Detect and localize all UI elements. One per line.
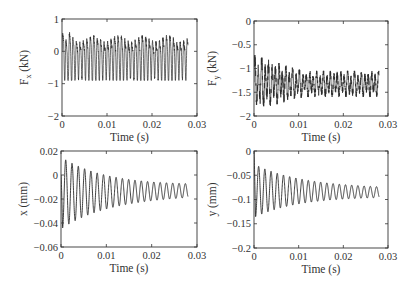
y-displacement-plot: 00.010.020.030−0.05−0.1−0.15−0.2Time (s)… [206, 146, 397, 277]
y-tick-label: −2 [48, 111, 59, 122]
y-tick-label: 0 [246, 146, 251, 157]
axes-frame [61, 151, 197, 247]
x-tick-label: 0.02 [334, 119, 352, 130]
y-tick-label: −0.2 [232, 243, 251, 254]
x-axis-label: Time (s) [110, 131, 149, 144]
x-tick-label: 0 [251, 119, 256, 130]
y-tick-label: 0 [246, 16, 251, 27]
y-tick-label: −1 [48, 78, 59, 89]
data-line [62, 32, 188, 80]
x-tick-label: 0.01 [289, 119, 307, 130]
x-tick-label: 0.01 [97, 250, 115, 261]
x-tick-label: 0 [58, 250, 63, 261]
x-tick-label: 0.01 [289, 251, 307, 262]
y-tick-label: −0.02 [34, 194, 58, 205]
x-axis-label: Time (s) [110, 262, 149, 275]
axes-frame [254, 21, 388, 116]
y-tick-label: 0.02 [40, 146, 58, 157]
y-tick-label: −0.15 [227, 218, 251, 229]
x-axis-label: Time (s) [302, 131, 341, 144]
y-tick-label: 1 [54, 14, 59, 25]
x-axis-label: Time (s) [302, 263, 341, 276]
y-tick-label: −0.06 [34, 242, 58, 253]
x-tick-label: 0 [59, 119, 64, 130]
y-tick-label: −1.5 [232, 87, 251, 98]
data-line [254, 151, 379, 217]
y-tick-label: 0 [53, 170, 58, 181]
y-tick-label: −0.04 [34, 218, 59, 229]
y-tick-label: −0.1 [232, 194, 251, 205]
x-displacement-plot: 00.010.020.030.020−0.02−0.04−0.06Time (s… [17, 146, 206, 276]
y-axis-label: Fx (kN) [18, 50, 33, 85]
y-axis-label: y (mm) [206, 182, 219, 216]
x-tick-label: 0.03 [379, 119, 397, 130]
data-line [254, 55, 379, 106]
x-tick-label: 0.02 [143, 119, 161, 130]
x-tick-label: 0.01 [98, 119, 116, 130]
y-axis-label: Fy (kN) [206, 51, 221, 86]
x-tick-label: 0.02 [142, 250, 160, 261]
x-tick-label: 0.03 [188, 119, 206, 130]
y-tick-label: −2 [240, 111, 251, 122]
x-tick-label: 0.02 [334, 251, 352, 262]
x-tick-label: 0.03 [379, 251, 397, 262]
fx-force-plot: 00.010.020.0310−1−2Time (s)Fx (kN) [18, 14, 206, 145]
y-tick-label: −1 [240, 63, 251, 74]
x-tick-label: 0.03 [188, 250, 206, 261]
y-tick-label: −0.5 [232, 39, 251, 50]
x-tick-label: 0 [251, 251, 256, 262]
y-axis-label: x (mm) [17, 182, 30, 216]
figure: 00.010.020.0310−1−2Time (s)Fx (kN) 00.01… [0, 0, 414, 290]
data-line [61, 160, 188, 228]
axes-frame [254, 151, 388, 248]
y-tick-label: 0 [54, 46, 59, 57]
fy-force-plot: 00.010.020.030−0.5−1−1.5−2Time (s)Fy (kN… [206, 16, 397, 145]
y-tick-label: −0.05 [227, 170, 251, 181]
